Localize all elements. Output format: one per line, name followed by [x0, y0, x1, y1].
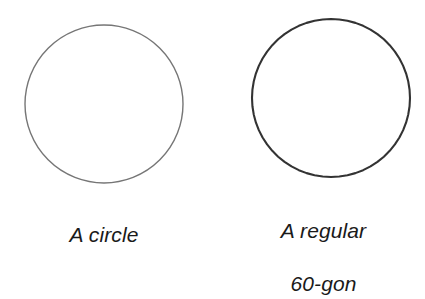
caption-right-line-2: 60-gon	[222, 271, 425, 297]
caption-right-line-1: A regular	[222, 218, 425, 244]
caption-left-line-1: A circle	[0, 222, 208, 248]
caption-right-polygon: A regular 60-gon	[222, 192, 425, 299]
regular-polygon-outline-icon	[252, 19, 410, 177]
circle-outline-icon	[25, 25, 183, 183]
caption-left-circle: A circle	[0, 196, 208, 275]
